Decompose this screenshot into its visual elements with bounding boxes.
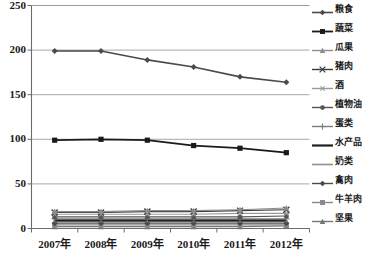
legend-item-8[interactable]: 奶类 bbox=[312, 156, 353, 167]
legend-marker-icon bbox=[312, 42, 333, 53]
legend-marker-icon bbox=[312, 61, 333, 72]
legend-label: 酒 bbox=[333, 80, 344, 91]
legend-label: 蛋类 bbox=[333, 118, 353, 129]
y-axis-tick-label: 250 bbox=[0, 0, 26, 11]
legend-item-5[interactable]: 植物油 bbox=[312, 99, 361, 110]
y-axis-tick-label: 0 bbox=[0, 222, 26, 234]
y-axis-tick-label: 50 bbox=[0, 177, 26, 189]
y-axis-tick-label: 150 bbox=[0, 88, 26, 100]
x-axis-tick-label: 2010年 bbox=[171, 235, 217, 251]
legend-item-4[interactable]: 酒 bbox=[312, 80, 344, 91]
legend-item-9[interactable]: 禽肉 bbox=[312, 175, 353, 186]
legend-marker-icon bbox=[312, 23, 333, 34]
y-axis-tick-label: 200 bbox=[0, 43, 26, 55]
legend-label: 坚果 bbox=[333, 213, 353, 224]
chart-legend: 粮食蔬菜瓜果猪肉酒植物油蛋类水产品奶类禽肉牛羊肉坚果 bbox=[312, 4, 371, 230]
legend-label: 粮食 bbox=[333, 4, 353, 15]
legend-item-0[interactable]: 粮食 bbox=[312, 4, 353, 15]
legend-label: 瓜果 bbox=[333, 42, 353, 53]
legend-marker-icon bbox=[312, 137, 333, 148]
legend-marker-icon bbox=[312, 213, 333, 224]
legend-item-10[interactable]: 牛羊肉 bbox=[312, 194, 361, 205]
legend-label: 奶类 bbox=[333, 156, 353, 167]
x-axis-tick-label: 2007年 bbox=[32, 235, 78, 251]
legend-marker-icon bbox=[312, 80, 333, 91]
x-axis-tick-label: 2012年 bbox=[263, 235, 309, 251]
legend-item-1[interactable]: 蔬菜 bbox=[312, 23, 353, 34]
x-axis-tick-label: 2008年 bbox=[78, 235, 124, 251]
legend-label: 禽肉 bbox=[333, 175, 353, 186]
legend-label: 牛羊肉 bbox=[333, 194, 361, 205]
legend-item-6[interactable]: 蛋类 bbox=[312, 118, 353, 129]
legend-marker-icon bbox=[312, 156, 333, 167]
legend-marker-icon bbox=[312, 4, 333, 15]
y-axis-tick-label: 100 bbox=[0, 132, 26, 144]
legend-marker-icon bbox=[312, 118, 333, 129]
legend-marker-icon bbox=[312, 194, 333, 205]
legend-label: 植物油 bbox=[333, 99, 361, 110]
legend-item-3[interactable]: 猪肉 bbox=[312, 61, 353, 72]
legend-item-11[interactable]: 坚果 bbox=[312, 213, 353, 224]
legend-item-7[interactable]: 水产品 bbox=[312, 137, 361, 148]
x-axis-tick-label: 2009年 bbox=[124, 235, 170, 251]
legend-label: 蔬菜 bbox=[333, 23, 353, 34]
legend-marker-icon bbox=[312, 99, 333, 110]
legend-label: 猪肉 bbox=[333, 61, 353, 72]
line-chart: 粮食蔬菜瓜果猪肉酒植物油蛋类水产品奶类禽肉牛羊肉坚果 0501001502002… bbox=[0, 0, 371, 264]
legend-item-2[interactable]: 瓜果 bbox=[312, 42, 353, 53]
x-axis-tick-label: 2011年 bbox=[217, 235, 263, 251]
legend-marker-icon bbox=[312, 175, 333, 186]
legend-label: 水产品 bbox=[333, 137, 361, 148]
